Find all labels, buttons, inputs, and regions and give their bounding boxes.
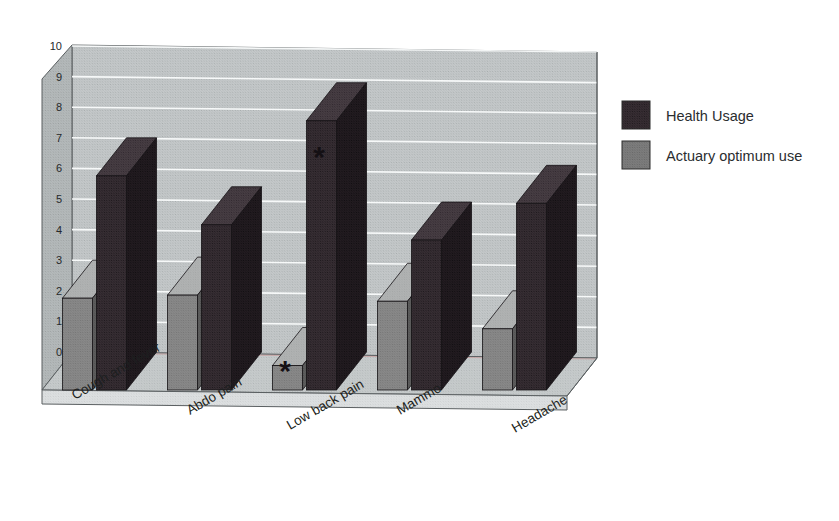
asterisk-annotation: * (279, 354, 291, 387)
y-axis-tick-label: 10 (50, 40, 62, 52)
bar (517, 165, 577, 390)
bar (412, 202, 472, 390)
bar-front-face (168, 295, 198, 390)
bar-front-face (412, 240, 442, 390)
legend-swatch (622, 141, 650, 169)
legend: Health UsageActuary optimum use (622, 101, 802, 169)
y-axis-tick-label: 0 (56, 346, 62, 358)
bar-front-face (202, 225, 232, 390)
y-axis-tick-label: 3 (56, 254, 62, 266)
bar (307, 83, 367, 390)
legend-label: Health Usage (666, 108, 754, 124)
y-axis-tick-label: 5 (56, 193, 62, 205)
bar (202, 187, 262, 390)
bar-front-face (378, 301, 408, 390)
chart-container: 012345678910**Cough and feverAbdo painLo… (0, 0, 839, 521)
y-axis-tick-label: 6 (56, 162, 62, 174)
y-axis-tick-label: 7 (56, 132, 62, 144)
legend-item[interactable]: Health Usage (622, 101, 754, 129)
asterisk-annotation: * (313, 140, 325, 173)
y-axis-tick-label: 2 (56, 285, 62, 297)
y-axis-tick-label: 1 (56, 315, 62, 327)
bar-front-face (97, 176, 127, 390)
bar-front-face (483, 329, 513, 390)
y-axis-tick-label: 4 (56, 224, 62, 236)
bar-side-face (337, 83, 367, 390)
plot-area: 012345678910 (42, 40, 597, 410)
bar-chart-3d: 012345678910**Cough and feverAbdo painLo… (0, 0, 839, 521)
bar-front-face (517, 203, 547, 390)
bar-front-face (63, 298, 93, 390)
y-axis-tick-label: 9 (56, 71, 62, 83)
y-axis-tick-label: 8 (56, 101, 62, 113)
legend-swatch (622, 101, 650, 129)
bar-side-face (547, 165, 577, 390)
legend-item[interactable]: Actuary optimum use (622, 141, 802, 169)
legend-label: Actuary optimum use (666, 148, 802, 164)
